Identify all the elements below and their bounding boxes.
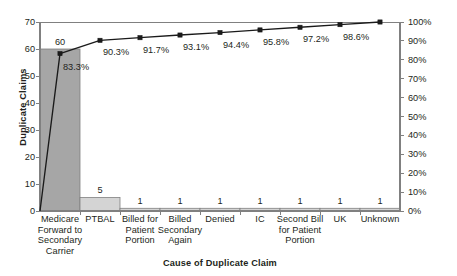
line-marker [258,28,262,32]
bar-value-label: 1 [280,197,320,206]
x-axis-category-line: Unknown [354,214,406,225]
y-axis-right-tick-label: 50% [408,112,452,121]
x-axis-category-label: Unknown [354,214,406,225]
x-axis-category-line: Carrier [34,246,86,257]
x-axis-title: Cause of Duplicate Claim [40,258,400,268]
y-axis-right-tick-label: 70% [408,74,452,83]
x-axis-category-line: Secondary [154,225,206,236]
line-marker [338,23,342,27]
y-axis-right-tick-label: 100% [408,18,452,27]
bar-value-label: 1 [160,197,200,206]
bar-value-label: 60 [40,38,80,47]
y-axis-right-tick-label: 90% [408,36,452,45]
cumulative-percent-label: 91.7% [143,46,169,55]
bar-value-label: 1 [200,197,240,206]
y-axis-left-tick-label: 40 [13,99,35,108]
y-axis-right-tick-label: 40% [408,131,452,140]
x-axis-category-line: Secondary [34,235,86,246]
y-axis-right-tick-label: 30% [408,150,452,159]
line-marker [378,20,382,24]
line-marker [298,25,302,29]
x-axis-category-line: Portion [274,235,326,246]
bar-value-label: 1 [240,197,280,206]
line-marker [138,36,142,40]
cumulative-line [40,22,380,211]
y-axis-right-tick-label: 0% [408,207,452,216]
x-axis-category-line: Forward to [34,225,86,236]
y-axis-left-tick-label: 70 [13,18,35,27]
y-axis-left-tick-label: 0 [13,207,35,216]
y-axis-left-tick-label: 60 [13,45,35,54]
y-axis-right-tick-label: 10% [408,188,452,197]
bar-value-label: 1 [320,197,360,206]
y-axis-left-tick-label: 50 [13,72,35,81]
cumulative-percent-label: 94.4% [223,41,249,50]
cumulative-percent-label: 97.2% [303,35,329,44]
bar [40,49,80,211]
x-axis-category-line: Again [154,235,206,246]
bar [80,198,120,212]
x-axis-category-line: for Patient [274,225,326,236]
line-marker [58,51,62,55]
y-axis-left-ticks: 010203040506070 [10,0,35,276]
line-marker [218,30,222,34]
y-axis-right-tick-label: 20% [408,169,452,178]
y-axis-left-tick-label: 20 [13,153,35,162]
cumulative-percent-label: 93.1% [183,43,209,52]
cumulative-percent-label: 98.6% [343,33,369,42]
line-marker [98,38,102,42]
pareto-chart: Duplicate Claims 010203040506070 0%10%20… [0,0,457,276]
y-axis-right-tick-label: 80% [408,55,452,64]
y-axis-right-tick-label: 60% [408,93,452,102]
cumulative-percent-label: 90.3% [103,48,129,57]
bar-value-label: 1 [360,197,400,206]
cumulative-percent-label: 83.3% [63,63,89,72]
line-marker [178,33,182,37]
cumulative-line-group [40,20,382,211]
cumulative-percent-label: 95.8% [263,38,289,47]
bar-value-label: 5 [80,186,120,195]
bar-value-label: 1 [120,197,160,206]
x-axis-category-labels: MedicareForward toSecondaryCarrierPTBALB… [40,214,400,258]
y-axis-left-tick-label: 10 [13,180,35,189]
y-axis-left-tick-label: 30 [13,126,35,135]
y-axis-right-ticks: 0%10%20%30%40%50%60%70%80%90%100% [408,0,454,276]
